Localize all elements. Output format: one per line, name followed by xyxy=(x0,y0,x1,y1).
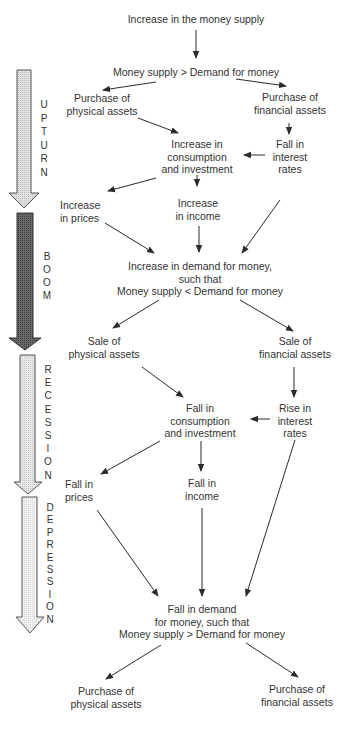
node-fall-interest-rates: Fall in interest rates xyxy=(268,138,312,176)
node-fall-consumption-investment: Fall in consumption and investment xyxy=(158,402,242,440)
node-increase-demand-for-money: Increase in demand for money, such that … xyxy=(100,260,300,298)
node-fall-prices: Fall in prices xyxy=(65,478,109,503)
phase-label-upturn: U P T U R N xyxy=(38,98,50,179)
phase-arrow-recession xyxy=(14,355,42,494)
node-purchase-physical-assets-1: Purchase of physical assets xyxy=(62,92,142,117)
phase-label-recession: R E C E S S I O N xyxy=(42,363,54,482)
phase-arrow-boom xyxy=(9,213,41,350)
node-money-supply-gt-demand-top: Money supply > Demand for money xyxy=(96,66,296,79)
node-sale-financial-assets: Sale of financial assets xyxy=(253,335,337,360)
phase-arrow-upturn xyxy=(9,70,39,208)
node-sale-physical-assets: Sale of physical assets xyxy=(64,335,144,360)
node-increase-consumption-investment: Increase in consumption and investment xyxy=(155,138,239,176)
node-fall-income: Fall in income xyxy=(180,477,224,502)
node-rise-interest-rates: Rise in interest rates xyxy=(272,402,318,440)
node-increase-income: Increase in income xyxy=(170,197,226,222)
phase-label-boom: B O O M xyxy=(41,250,53,302)
node-fall-demand-for-money: Fall in demand for money, such that Mone… xyxy=(102,603,302,641)
node-increase-prices: Increase in prices xyxy=(60,199,108,224)
node-purchase-financial-assets-1: Purchase of financial assets xyxy=(248,91,332,116)
phase-label-depression: D E P R E S S I O N xyxy=(44,502,56,626)
phase-arrow-depression xyxy=(16,497,44,633)
node-purchase-physical-assets-2: Purchase of physical assets xyxy=(66,685,146,710)
node-increase-money-supply: Increase in the money supply xyxy=(96,13,296,26)
node-purchase-financial-assets-2: Purchase of financial assets xyxy=(255,683,339,708)
